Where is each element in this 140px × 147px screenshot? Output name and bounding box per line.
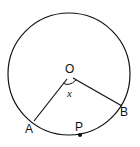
radius-oa — [34, 79, 67, 121]
radius-ob — [73, 78, 122, 106]
label-o: O — [65, 62, 74, 76]
label-a: A — [25, 122, 33, 136]
label-angle-x: x — [66, 87, 72, 99]
label-p: P — [75, 120, 83, 134]
label-b: B — [120, 105, 128, 119]
circle-diagram: O x A B P — [0, 0, 140, 147]
